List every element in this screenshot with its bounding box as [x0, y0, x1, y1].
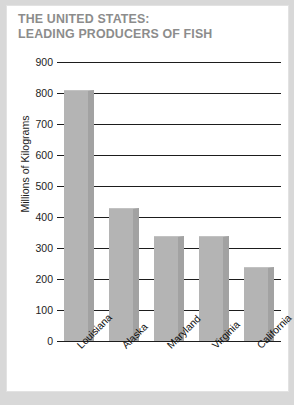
y-axis-tick: 200: [13, 273, 53, 285]
plot-area: [57, 62, 281, 341]
bar: [109, 208, 139, 341]
chart-card: THE UNITED STATES: LEADING PRODUCERS OF …: [7, 6, 288, 391]
chart-title-line-1: THE UNITED STATES:: [18, 12, 268, 27]
bar: [199, 236, 229, 341]
y-axis-tick: 500: [13, 180, 53, 192]
y-axis-tick: 0: [13, 335, 53, 347]
x-axis-tick-labels: LouisianaAlaskaMarylandVirginiaCaliforni…: [57, 343, 281, 391]
bar: [154, 236, 184, 341]
y-axis-tick: 600: [13, 149, 53, 161]
y-axis-tick: 100: [13, 304, 53, 316]
gridline: [57, 62, 281, 63]
y-axis-tick: 300: [13, 242, 53, 254]
y-axis-tick: 400: [13, 211, 53, 223]
chart-title: THE UNITED STATES: LEADING PRODUCERS OF …: [18, 12, 268, 41]
y-axis-tick: 900: [13, 56, 53, 68]
y-axis-tick-labels: 0100200300400500600700800900: [11, 62, 53, 341]
bar: [64, 90, 94, 341]
y-axis-tick: 800: [13, 87, 53, 99]
y-axis-tick: 700: [13, 118, 53, 130]
chart-title-line-2: LEADING PRODUCERS OF FISH: [18, 27, 268, 42]
